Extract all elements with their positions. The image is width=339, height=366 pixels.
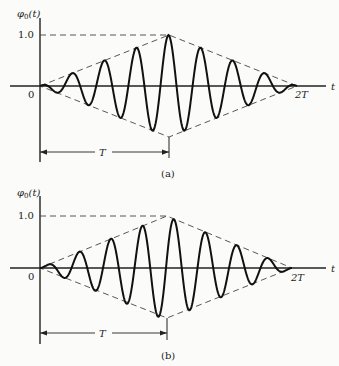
x-axis-label: t (331, 81, 336, 92)
span-label: T (99, 328, 107, 339)
panel-caption: (a) (161, 168, 175, 179)
panel-b: T φ0(t) 1.0 0 2T t (b) (10, 187, 336, 361)
figure: T φ0(t) 1.0 0 2T t (a) T φ0(t) 1.0 0 2T … (0, 0, 339, 366)
x-axis-label: t (331, 263, 336, 274)
span-label: T (99, 147, 107, 158)
y-tick-1: 1.0 (18, 210, 34, 221)
x-end-label: 2T (290, 272, 305, 283)
x-end-label: 2T (294, 89, 309, 100)
panel-caption: (b) (161, 350, 175, 361)
y-axis-label: φ0(t) (17, 187, 40, 200)
origin-label: 0 (28, 271, 34, 282)
y-tick-1: 1.0 (18, 29, 34, 40)
panel-a: T φ0(t) 1.0 0 2T t (a) (10, 8, 336, 179)
origin-label: 0 (28, 89, 34, 100)
waveform (40, 35, 297, 131)
y-axis-label: φ0(t) (17, 8, 40, 21)
